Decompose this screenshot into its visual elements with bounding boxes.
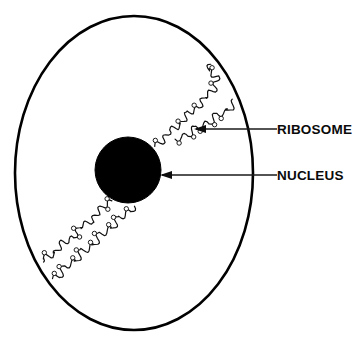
ribosome-granule <box>88 240 92 244</box>
ribosome-granule <box>124 207 128 211</box>
ribosome-label: RIBOSOME <box>277 122 352 137</box>
ribosome-granule <box>71 256 75 260</box>
ribosome-granule <box>52 271 56 275</box>
cell-diagram-figure: RIBOSOME NUCLEUS <box>0 0 364 344</box>
ribosome-granule <box>57 264 61 268</box>
ribosome-granule <box>74 248 78 252</box>
ribosome-granule <box>153 138 157 142</box>
cell-diagram-canvas: RIBOSOME NUCLEUS <box>0 0 364 344</box>
ribosome-granule <box>92 231 96 235</box>
ribosome-granule <box>219 116 223 120</box>
ribosome-granule <box>192 103 196 107</box>
ribosome-granule <box>106 222 110 226</box>
ribosome-granule <box>177 141 181 145</box>
ribosome-granule <box>71 226 75 230</box>
ribosome-granule <box>212 123 216 127</box>
ribosome-granule <box>192 135 196 139</box>
ribosome-granule <box>42 250 46 254</box>
ribosome-granule <box>106 207 110 211</box>
ribosome-granule <box>77 235 81 239</box>
nucleus-label: NUCLEUS <box>277 168 344 183</box>
ribosome-granule <box>176 119 180 123</box>
ribosome-granule <box>210 66 214 70</box>
nucleus-body <box>95 137 161 203</box>
ribosome-granule <box>209 81 213 85</box>
ribosome-granule <box>111 215 115 219</box>
